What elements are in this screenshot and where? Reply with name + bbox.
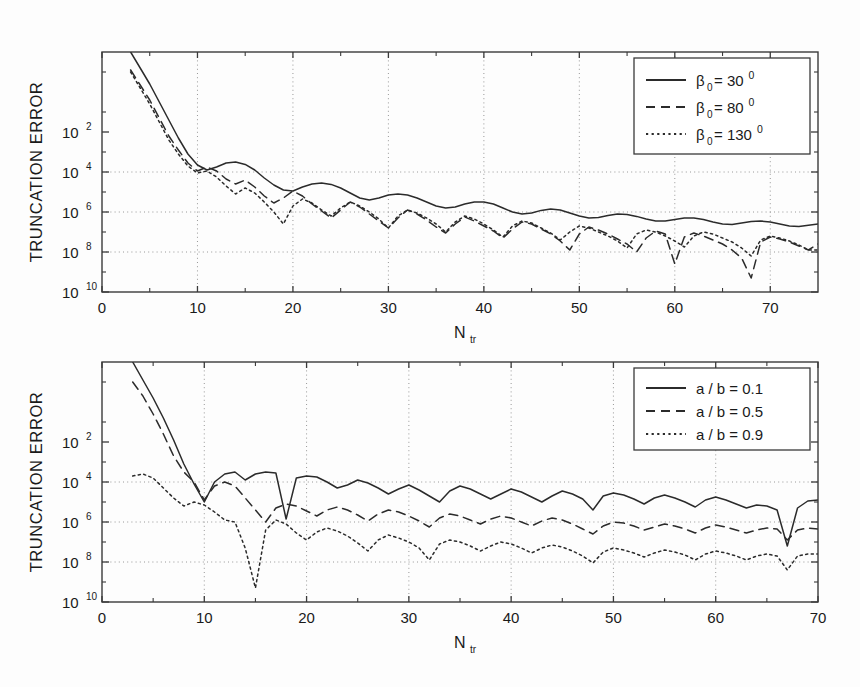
y-tick-label: 10 (62, 164, 79, 181)
legend-label-value-beta0-30: = 30 (714, 72, 744, 89)
chart-bottom-svg: 0102030405060701021041061081010NtrTRUNCA… (0, 340, 860, 687)
chart-top-beta0: 0102030405060701021041061081010NtrTRUNCA… (0, 0, 860, 345)
chart-bottom-ab-ratio: 0102030405060701021041061081010NtrTRUNCA… (0, 340, 860, 687)
y-axis-label: TRUNCATION ERROR (27, 392, 45, 573)
y-tick-label: 10 (62, 434, 79, 451)
x-tick-label: 70 (762, 299, 779, 316)
y-tick-exponent: 2 (86, 431, 92, 442)
legend: a / b = 0.1a / b = 0.5a / b = 0.9 (634, 368, 810, 450)
y-tick-exponent: 6 (86, 511, 92, 522)
y-tick-exponent: 2 (86, 121, 92, 132)
chart-top-svg: 0102030405060701021041061081010NtrTRUNCA… (0, 0, 860, 345)
legend-label-ab-0.5: a / b = 0.5 (696, 403, 763, 420)
y-tick-exponent: 6 (86, 201, 92, 212)
y-tick-exponent: 10 (86, 281, 98, 292)
x-tick-label: 0 (98, 609, 106, 626)
legend-label-degree-beta0-30: 0 (748, 69, 754, 81)
x-tick-label: 30 (401, 609, 418, 626)
x-tick-label: 40 (476, 299, 493, 316)
legend-label-beta0-30: β (696, 72, 705, 89)
legend-label-beta0-80: β (696, 99, 705, 116)
x-tick-label: 30 (380, 299, 397, 316)
legend-label-degree-beta0-80: 0 (748, 96, 754, 108)
y-tick-exponent: 8 (86, 241, 92, 252)
x-tick-label: 40 (503, 609, 520, 626)
x-tick-label: 10 (189, 299, 206, 316)
legend-label-value-beta0-130: = 130 (714, 126, 752, 143)
y-tick-exponent: 10 (86, 591, 98, 602)
y-tick-label: 10 (62, 244, 79, 261)
figure-page: 0102030405060701021041061081010NtrTRUNCA… (0, 0, 860, 687)
legend-label-beta0-130: β (696, 126, 705, 143)
x-tick-label: 60 (707, 609, 724, 626)
y-tick-label: 10 (62, 124, 79, 141)
y-tick-exponent: 4 (86, 161, 92, 172)
x-tick-label: 50 (571, 299, 588, 316)
legend-label-value-beta0-80: = 80 (714, 99, 744, 116)
x-tick-label: 0 (98, 299, 106, 316)
x-tick-label: 10 (196, 609, 213, 626)
x-tick-label: 20 (298, 609, 315, 626)
y-tick-label: 10 (62, 514, 79, 531)
y-axis-label: TRUNCATION ERROR (27, 82, 45, 263)
y-tick-exponent: 4 (86, 471, 92, 482)
x-tick-label: 60 (666, 299, 683, 316)
x-axis-label: N (454, 634, 466, 651)
legend-label-subscript-beta0-80: 0 (707, 109, 713, 120)
legend-label-subscript-beta0-30: 0 (707, 82, 713, 93)
legend-label-subscript-beta0-130: 0 (707, 136, 713, 147)
y-tick-label: 10 (62, 594, 79, 611)
y-tick-label: 10 (62, 204, 79, 221)
legend: β0= 300β0= 800β0= 1300 (634, 58, 810, 154)
y-tick-label: 10 (62, 284, 79, 301)
x-axis-label: N (454, 324, 466, 341)
y-tick-label: 10 (62, 474, 79, 491)
legend-label-degree-beta0-130: 0 (757, 123, 763, 135)
legend-label-ab-0.1: a / b = 0.1 (696, 380, 763, 397)
y-tick-label: 10 (62, 554, 79, 571)
x-axis-label-subscript: tr (470, 644, 477, 655)
x-tick-label: 70 (810, 609, 827, 626)
x-tick-label: 20 (285, 299, 302, 316)
legend-label-ab-0.9: a / b = 0.9 (696, 426, 763, 443)
y-tick-exponent: 8 (86, 551, 92, 562)
x-tick-label: 50 (605, 609, 622, 626)
